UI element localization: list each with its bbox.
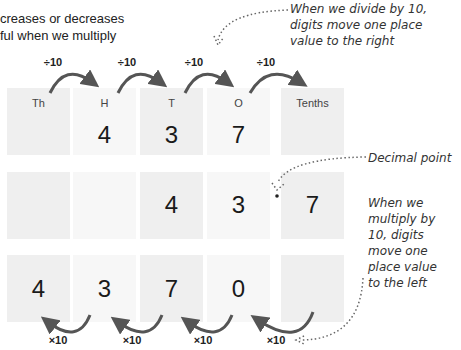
dotted-callout-icon <box>214 10 366 344</box>
divide-arrow-icon <box>50 74 300 93</box>
multiply-arrow-icon <box>48 312 313 332</box>
arrows-overlay <box>0 0 461 350</box>
decimal-point-dot <box>275 194 279 198</box>
